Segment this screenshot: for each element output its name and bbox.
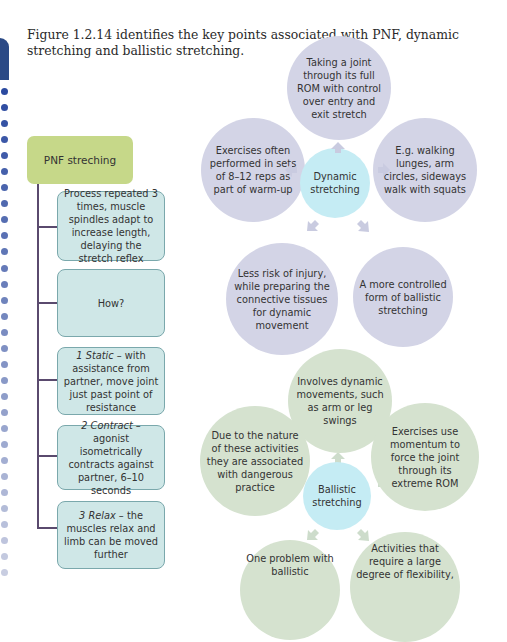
ballistic-right-bubble: Exercises use momentum to force the join… — [371, 403, 479, 511]
arrow-down-right-icon — [357, 220, 369, 232]
dynamic-arrows — [285, 142, 390, 232]
arrow-down-left-icon — [307, 529, 319, 540]
arrow-up-icon — [331, 142, 345, 153]
arrow-right-icon — [378, 163, 390, 177]
arrow-down-left-icon — [307, 220, 319, 231]
arrow-down-right-icon — [357, 529, 369, 541]
ballistic-bottom-left-bubble: One problem with ballistic — [240, 540, 340, 640]
ballistic-center: Ballistic stretching — [303, 462, 371, 530]
arrow-left-icon — [285, 163, 297, 177]
ballistic-bottom-right-bubble: Activities that require a large degree o… — [350, 532, 460, 642]
ballistic-left-bubble: Due to the nature of these activities th… — [200, 406, 310, 516]
